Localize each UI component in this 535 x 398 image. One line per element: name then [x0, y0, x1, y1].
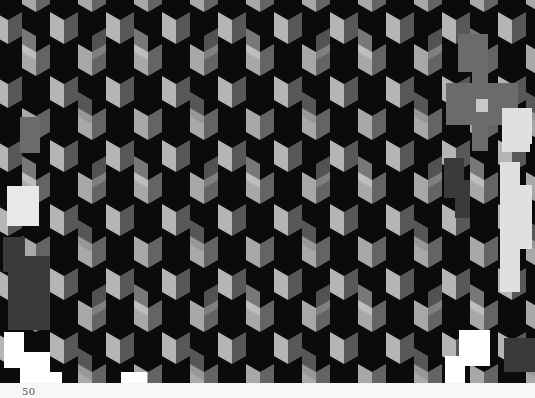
patch-right-light-inset [476, 99, 488, 112]
page-number: 50 [22, 386, 36, 397]
patch-bottom-right-dark [504, 338, 535, 372]
patch-bottom-white [121, 372, 147, 383]
page-footer [0, 383, 535, 398]
patch-right-gray-lower [472, 125, 488, 151]
patch-right-gray-top [458, 34, 488, 72]
patch-right-light-column-2 [515, 185, 532, 249]
patch-bottom-left-white-3 [50, 372, 62, 383]
patch-left-dark-2 [8, 256, 50, 330]
patch-left-light [7, 186, 39, 226]
patch-right-light [502, 108, 532, 144]
quilt-photo [0, 0, 535, 383]
patch-right-dark-2 [455, 180, 470, 218]
patch-right-light-top [502, 140, 530, 152]
patch-bottom-left-white-2 [20, 352, 50, 383]
patch-left-gray [20, 117, 40, 153]
patch-right-gray-stem [472, 68, 488, 128]
patch-bottom-right-white-2 [445, 356, 465, 383]
